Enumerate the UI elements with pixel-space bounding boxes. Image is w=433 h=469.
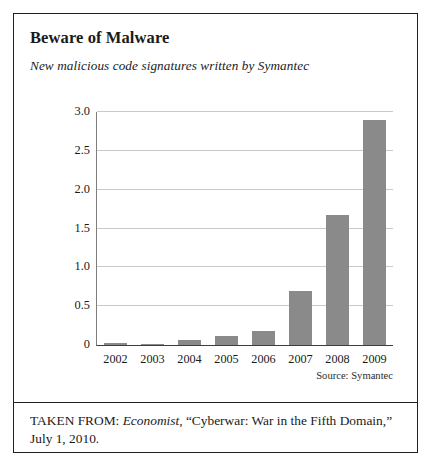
bar-slot: 2008	[319, 112, 356, 345]
x-axis-tick-label: 2004	[177, 352, 201, 367]
bar-series: 20022003200420052006200720082009	[97, 112, 393, 345]
chart-title: Beware of Malware	[30, 28, 169, 48]
bar-slot: 2007	[282, 112, 319, 345]
plot-area: 3.02.52.01.51.00.50 20022003200420052006…	[96, 112, 393, 346]
chart-plot: 3.02.52.01.51.00.50 20022003200420052006…	[14, 98, 419, 374]
bar	[289, 291, 312, 345]
y-axis-tick-label: 0.5	[75, 298, 91, 313]
bar-slot: 2003	[134, 112, 171, 345]
footer-divider	[14, 402, 417, 403]
bar	[141, 344, 164, 345]
citation: TAKEN FROM: Economist, “Cyberwar: War in…	[30, 412, 401, 447]
y-axis-tick-label: 2.5	[75, 142, 91, 157]
bar	[215, 336, 238, 345]
bar	[252, 331, 275, 345]
y-axis-tick-label: 2.0	[75, 181, 91, 196]
bar	[326, 215, 349, 345]
bar-slot: 2009	[356, 112, 393, 345]
citation-article: , “Cyberwar: War in the Fifth Domain,”	[179, 413, 392, 428]
x-axis-tick-label: 2002	[103, 352, 127, 367]
y-axis-tick-label: 1.0	[75, 259, 91, 274]
x-axis-tick-label: 2007	[288, 352, 312, 367]
x-axis-tick-label: 2009	[362, 352, 386, 367]
citation-prefix: TAKEN FROM:	[30, 413, 123, 428]
chart-subtitle: New malicious code signatures written by…	[30, 58, 309, 74]
figure-frame: Beware of Malware New malicious code sig…	[13, 13, 418, 453]
bar	[104, 343, 127, 345]
bar-slot: 2004	[171, 112, 208, 345]
citation-publication: Economist	[123, 413, 180, 428]
bar-slot: 2002	[97, 112, 134, 345]
x-axis-tick-label: 2006	[251, 352, 275, 367]
y-axis-tick-label: 3.0	[75, 104, 91, 119]
bar-slot: 2005	[208, 112, 245, 345]
bar	[178, 340, 201, 345]
x-axis-tick-label: 2003	[140, 352, 164, 367]
bar-slot: 2006	[245, 112, 282, 345]
x-axis-tick-label: 2005	[214, 352, 238, 367]
bar	[363, 120, 386, 345]
y-axis-tick-label: 0	[84, 337, 90, 352]
citation-date: July 1, 2010.	[30, 431, 99, 446]
source-note: Source: Symantec	[316, 370, 393, 381]
x-axis-tick-label: 2008	[325, 352, 349, 367]
y-axis-tick-label: 1.5	[75, 220, 91, 235]
